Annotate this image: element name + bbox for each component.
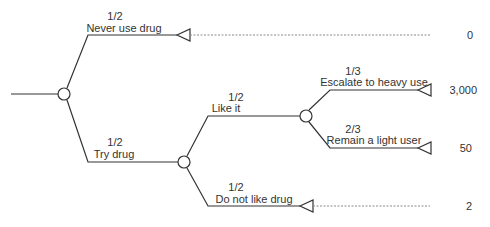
label-escalate: Escalate to heavy use xyxy=(320,76,428,88)
branch-escalate xyxy=(309,90,418,110)
payoff-remain-light: 50 xyxy=(460,142,472,154)
terminal-node-do-not-like xyxy=(300,200,313,212)
payoff-escalate: 3,000 xyxy=(449,84,477,96)
chance-node-root xyxy=(58,88,70,100)
payoff-never-use: 0 xyxy=(467,29,473,41)
terminal-node-never-use xyxy=(177,29,190,41)
label-do-not-like: Do not like drug xyxy=(215,193,292,205)
prob-do-not-like: 1/2 xyxy=(228,181,243,193)
label-remain-light: Remain a light user xyxy=(327,134,422,146)
chance-node-like xyxy=(300,110,312,122)
prob-never-use: 1/2 xyxy=(107,10,122,22)
label-like-it: Like it xyxy=(212,102,241,114)
branch-never-use xyxy=(67,35,177,88)
chance-node-try xyxy=(178,156,190,168)
prob-try-drug: 1/2 xyxy=(107,136,122,148)
payoff-do-not-like: 2 xyxy=(466,200,472,212)
branch-like-it xyxy=(187,116,300,156)
label-never-use: Never use drug xyxy=(86,22,161,34)
label-try-drug: Try drug xyxy=(94,148,135,160)
